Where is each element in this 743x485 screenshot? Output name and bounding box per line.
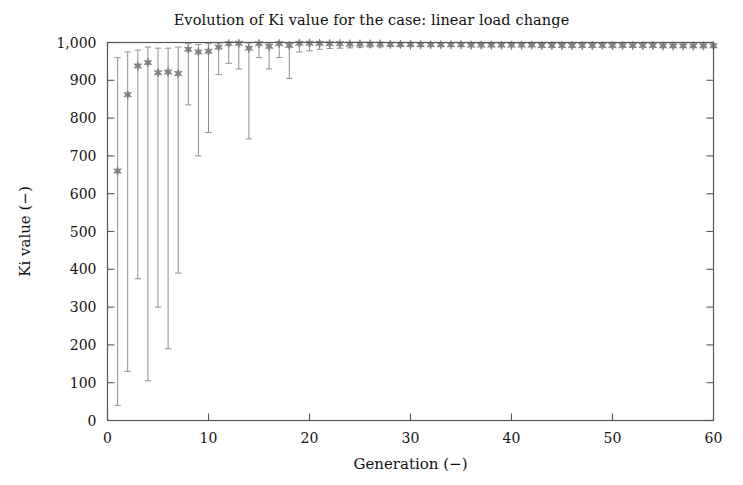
data-point-marker [154, 68, 162, 77]
y-tick-label: 800 [70, 110, 97, 126]
data-point-marker [205, 47, 213, 56]
data-point-marker [184, 45, 192, 54]
y-tick-label: 400 [70, 261, 97, 277]
data-point-marker [164, 68, 172, 77]
x-tick-label: 50 [604, 430, 622, 446]
y-tick-label: 500 [70, 224, 97, 240]
data-point-marker [174, 69, 182, 78]
data-point-marker [235, 39, 243, 48]
data-point-marker [447, 40, 455, 49]
data-point-marker [296, 39, 304, 48]
data-point-marker [386, 40, 394, 49]
data-point-marker [397, 40, 405, 49]
y-tick-label: 300 [70, 299, 97, 315]
data-point-marker [417, 40, 425, 49]
data-point-marker [195, 48, 203, 57]
data-point-marker [245, 44, 253, 53]
y-tick-label: 600 [70, 186, 97, 202]
data-point-marker [346, 40, 354, 49]
data-point-marker [306, 39, 314, 48]
x-tick-label: 0 [103, 430, 112, 446]
data-point-marker [255, 39, 263, 48]
x-tick-label: 40 [503, 430, 521, 446]
x-axis-title: Generation (−) [353, 455, 467, 473]
y-tick-label: 700 [70, 148, 97, 164]
data-point-marker [427, 40, 435, 49]
x-axis: 0102030405060 [103, 43, 722, 446]
chart-figure: Evolution of Ki value for the case: line… [0, 0, 743, 485]
y-tick-label: 200 [70, 337, 97, 353]
x-tick-label: 60 [705, 430, 723, 446]
data-point-marker [225, 39, 233, 48]
chart-plot-area: 01002003004005006007008009001,0000102030… [0, 0, 743, 485]
y-axis-title: Ki value (−) [16, 186, 34, 277]
data-markers [114, 39, 718, 176]
data-point-marker [326, 39, 334, 48]
x-tick-label: 10 [200, 430, 218, 446]
data-point-marker [275, 39, 283, 48]
x-tick-label: 30 [402, 430, 420, 446]
data-point-marker [124, 90, 132, 99]
data-point-marker [134, 62, 142, 71]
y-tick-label: 1,000 [56, 35, 96, 51]
data-point-marker [144, 58, 152, 67]
y-tick-label: 0 [88, 413, 97, 429]
y-tick-label: 900 [70, 72, 97, 88]
data-point-marker [336, 39, 344, 48]
data-point-marker [407, 40, 415, 49]
y-axis: 01002003004005006007008009001,000 [56, 35, 713, 429]
data-point-marker [457, 40, 465, 49]
data-point-marker [316, 39, 324, 48]
y-tick-label: 100 [70, 375, 97, 391]
x-tick-label: 20 [301, 430, 319, 446]
error-bars [114, 43, 716, 406]
data-point-marker [114, 167, 122, 176]
data-point-marker [215, 43, 223, 52]
data-point-marker [437, 40, 445, 49]
